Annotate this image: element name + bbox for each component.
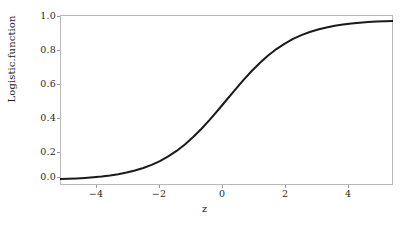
ytick-mark-0-0 — [57, 177, 60, 178]
xtick-neg2: −2 — [139, 188, 179, 200]
ytick-0-0: 0.0 — [6, 172, 56, 182]
xtick-neg4: −4 — [76, 188, 116, 200]
ytick-mark-0-8 — [57, 50, 60, 51]
figure-canvas: 1.0 0.8 0.6 0.4 0.2 0.0 −4 −2 0 2 4 z — [0, 0, 409, 225]
y-axis-label-holder: Logistic.function — [6, 4, 20, 114]
y-axis-label: Logistic.function — [6, 4, 17, 114]
xtick-0: 0 — [202, 188, 242, 200]
ytick-mark-0-4 — [57, 118, 60, 119]
logistic-curve-plot — [60, 15, 393, 185]
ytick-mark-0-6 — [57, 84, 60, 85]
ytick-mark-1-0 — [57, 16, 60, 17]
ytick-0-2: 0.2 — [6, 147, 56, 157]
ytick-mark-0-2 — [57, 152, 60, 153]
x-axis-label: z — [0, 203, 409, 214]
xtick-4: 4 — [328, 188, 368, 200]
logistic-curve-line — [60, 21, 393, 179]
ytick-0-4: 0.4 — [6, 113, 56, 123]
xtick-2: 2 — [265, 188, 305, 200]
